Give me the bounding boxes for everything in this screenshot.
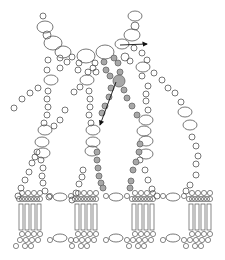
bead (57, 65, 63, 71)
bead (18, 185, 24, 191)
bead (44, 67, 50, 73)
bead (187, 182, 193, 188)
helix-segment (195, 204, 199, 230)
bead-large (38, 125, 52, 135)
bead (139, 73, 145, 79)
bead-highlighted (101, 59, 107, 65)
bead (142, 167, 148, 173)
bead (127, 58, 133, 64)
helix-segment (31, 204, 35, 230)
bead (195, 153, 201, 159)
bead (151, 70, 157, 76)
bead (45, 88, 51, 94)
arrow-right (120, 44, 147, 45)
bead-large (139, 115, 153, 125)
bead-large (44, 36, 62, 50)
bead-large (124, 29, 140, 41)
bead-large (44, 75, 58, 85)
bead (69, 54, 75, 60)
bead (40, 180, 46, 186)
membrane-unit (69, 190, 129, 248)
membrane-units (13, 190, 212, 248)
bead (69, 197, 75, 203)
bead (193, 172, 199, 178)
bead (178, 99, 184, 105)
bead (29, 160, 35, 166)
bead (172, 90, 178, 96)
bead (26, 169, 32, 175)
helix-segment (201, 204, 205, 230)
bead (79, 174, 85, 180)
bead (62, 107, 68, 113)
bead (46, 194, 52, 200)
bead (44, 96, 50, 102)
linker-oval (166, 193, 180, 201)
bead-large (136, 62, 150, 72)
linker-oval (109, 234, 123, 242)
linker-oval (109, 193, 123, 201)
helix-segment (19, 204, 23, 230)
bead-highlighted (107, 73, 113, 79)
bead-highlighted (128, 178, 134, 184)
bead-large (178, 107, 192, 117)
bead-highlighted (129, 103, 135, 109)
bead (145, 177, 151, 183)
diagram-canvas (0, 0, 225, 260)
bead (121, 53, 129, 61)
bead (86, 88, 92, 94)
bead (165, 85, 171, 91)
bead (90, 65, 96, 71)
bead-large (86, 125, 100, 135)
bead-highlighted (94, 149, 100, 155)
bead-large (183, 120, 197, 130)
bead (193, 143, 199, 149)
bead (145, 107, 151, 113)
bead (139, 50, 145, 56)
bead (15, 193, 21, 199)
bead (144, 57, 150, 63)
bead-highlighted (130, 167, 136, 173)
bead (154, 193, 160, 199)
bead-highlighted (124, 95, 130, 101)
helix-segment (81, 204, 85, 230)
bead-large (77, 49, 95, 63)
bead-large (128, 11, 142, 21)
helix-segment (37, 204, 41, 230)
bead (11, 105, 17, 111)
helix-segment (150, 204, 154, 230)
bead (189, 134, 195, 140)
bead (85, 69, 91, 75)
bead-highlighted (94, 157, 100, 163)
bead (93, 69, 99, 75)
bead-highlighted (121, 87, 127, 93)
bead (19, 96, 25, 102)
bead (32, 154, 38, 160)
bead (35, 85, 41, 91)
bead (40, 165, 46, 171)
helix-segment (132, 204, 136, 230)
bead (75, 67, 81, 73)
helix-segment (207, 204, 211, 230)
bead (87, 96, 93, 102)
helix-segment (75, 204, 79, 230)
bead (57, 117, 63, 123)
bead-highlighted (117, 69, 123, 75)
bead-highlighted (96, 173, 102, 179)
bead (143, 91, 149, 97)
bead (80, 167, 86, 173)
helix-segment (144, 204, 148, 230)
linker-oval (53, 234, 67, 242)
bead-large (115, 39, 129, 49)
bead-highlighted (136, 149, 142, 155)
bead-large (137, 126, 151, 136)
bead (27, 90, 33, 96)
bead (77, 84, 83, 90)
bead-highlighted (103, 67, 109, 73)
bead (159, 77, 165, 83)
bead-highlighted (95, 165, 101, 171)
bead (44, 112, 50, 118)
bead-large (35, 137, 49, 147)
bead (145, 83, 151, 89)
bead-highlighted (127, 185, 133, 191)
helix-segment (189, 204, 193, 230)
